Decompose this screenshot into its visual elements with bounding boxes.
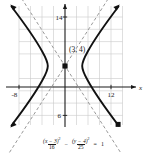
x-axis-label-left: -8 [12, 91, 18, 99]
equation-term1-denominator: 16 [48, 144, 56, 151]
y-axis-label-bottom: 6 [58, 112, 62, 120]
y-axis-label-top: 14 [56, 14, 64, 22]
equation-equals-sign: = [93, 141, 98, 147]
equation-operator: − [64, 141, 69, 147]
hyperbola-figure: (3, 4) 14 6 -8 12 x [0, 0, 147, 153]
equation-term1-numerator-text: (x − 3) [43, 138, 59, 144]
center-point-marker [62, 63, 67, 68]
equation-term1-numerator: (x − 3)2 [42, 137, 62, 144]
equation-row: (x − 3)2 16 − (y − 4)2 25 = 1 [42, 137, 105, 151]
arrowhead-lower-right [116, 122, 121, 127]
equation-term2-denominator: 25 [77, 144, 85, 151]
equation-term2-exponent: 2 [88, 136, 90, 141]
equation-fraction-2: (y − 4)2 25 [71, 137, 91, 151]
graph-canvas: (3, 4) 14 6 -8 12 x [0, 0, 147, 153]
x-axis-label-right: 12 [108, 91, 116, 99]
center-point-label: (3, 4) [69, 45, 86, 54]
equation-caption: (x − 3)2 16 − (y − 4)2 25 = 1 [0, 137, 147, 151]
equation-fraction-1: (x − 3)2 16 [42, 137, 62, 151]
equation-term2-numerator-text: (y − 4) [72, 138, 88, 144]
canvas-background [0, 0, 147, 153]
equation-right-hand-side: 1 [100, 141, 105, 147]
equation-term1-exponent: 2 [59, 136, 61, 141]
equation-term2-numerator: (y − 4)2 [71, 137, 91, 144]
